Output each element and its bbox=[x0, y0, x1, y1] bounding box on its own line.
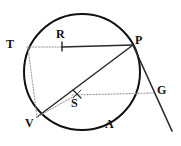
segment-p-v bbox=[37, 45, 133, 117]
geometry-figure: T R P S V A G bbox=[0, 0, 181, 146]
circle-outline bbox=[24, 14, 140, 130]
point-label-t: T bbox=[6, 38, 14, 50]
point-label-p: P bbox=[135, 34, 142, 46]
point-label-a: A bbox=[105, 118, 114, 130]
segment-r-p bbox=[62, 45, 133, 47]
point-label-g: G bbox=[157, 84, 166, 96]
point-label-v: V bbox=[25, 117, 34, 129]
point-label-s: S bbox=[71, 97, 78, 109]
segment-s-g bbox=[72, 93, 154, 95]
point-label-r: R bbox=[56, 28, 65, 40]
